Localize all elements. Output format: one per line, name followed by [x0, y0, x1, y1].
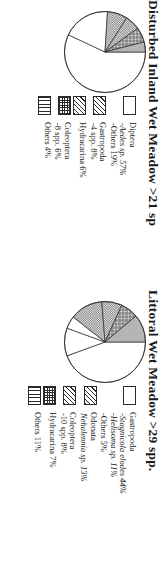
legend-label: Odonata	[88, 412, 98, 482]
legend-label: Coleoptera	[68, 412, 78, 454]
legend-disturbed: Diptera-Aedes sp. 57%-Others 19%Gastropo…	[37, 96, 137, 177]
legend-label: Diptera	[127, 122, 137, 176]
legend-row: Others 11%	[28, 386, 42, 494]
legend-swatch-diag-icon	[63, 386, 76, 405]
legend-sublabel: -Stagnicola elodes 44%	[118, 412, 128, 494]
figure-page: Disturbed Inland Wet Meadow >21 sp Dipte…	[0, 0, 163, 573]
legend-labels: Diptera-Aedes sp. 57%-Others 19%	[108, 122, 137, 176]
pie-svg-littoral	[61, 298, 149, 386]
legend-row: Hydracarina 6%	[73, 96, 87, 177]
legend-swatch-diag-icon	[73, 96, 86, 115]
legend-sublabel: -10 spp. 8%	[58, 412, 68, 454]
legend-label: Hydracarina 7%	[48, 412, 58, 467]
legend-sublabel: -Others 19%	[108, 122, 118, 176]
legend-labels: Hydracarina 6%	[77, 122, 87, 177]
pie-chart-disturbed	[61, 8, 149, 96]
legend-label: Gastropoda	[127, 412, 137, 494]
legend-labels: Others 4%	[42, 122, 52, 158]
legend-swatch-vert-icon	[28, 386, 41, 405]
legend-labels: Coleoptera-8 spp. 6%	[53, 122, 72, 160]
legend-row: Gastropoda-Stagnicola elodes 44%-Helisom…	[99, 386, 137, 494]
legend-label: Coleoptera	[62, 122, 72, 160]
legend-row: Diptera-Aedes sp. 57%-Others 19%	[108, 96, 137, 177]
legend-row: Gastropoda-4 spp. 8%	[88, 96, 107, 177]
pie-chart-littoral	[61, 298, 149, 386]
legend-sublabel: Nehalennia sp. 13%	[78, 412, 88, 482]
legend-label: Others 4%	[42, 122, 52, 158]
legend-swatch-diag-icon	[93, 96, 106, 115]
legend-swatch-blank-icon	[123, 96, 136, 115]
legend-swatch-diag-icon	[84, 386, 97, 405]
legend-label: Others 11%	[33, 412, 43, 452]
legend-littoral: Gastropoda-Stagnicola elodes 44%-Helisom…	[27, 386, 137, 494]
legend-swatch-check-icon	[43, 386, 56, 405]
legend-labels: Hydracarina 7%	[48, 412, 58, 467]
legend-row: OdonataNehalennia sp. 13%	[78, 386, 97, 494]
legend-swatch-blank-icon	[123, 386, 136, 405]
legend-labels: OdonataNehalennia sp. 13%	[78, 412, 97, 482]
legend-labels: Coleoptera-10 spp. 8%	[58, 412, 77, 454]
legend-label: Hydracarina 6%	[77, 122, 87, 177]
legend-sublabel: -Aedes sp. 57%	[118, 122, 128, 176]
legend-swatch-check-icon	[58, 96, 71, 115]
chart-panel-disturbed-inland-wet-meadow: Disturbed Inland Wet Meadow >21 sp Dipte…	[0, 0, 163, 286]
legend-labels: Gastropoda-4 spp. 8%	[88, 122, 107, 161]
legend-labels: Others 11%	[33, 412, 43, 452]
legend-row: Coleoptera-10 spp. 8%	[58, 386, 77, 494]
legend-row: Coleoptera-8 spp. 6%	[53, 96, 72, 177]
legend-sublabel: -4 spp. 8%	[88, 122, 98, 161]
legend-label: Gastropoda	[98, 122, 108, 161]
legend-labels: Gastropoda-Stagnicola elodes 44%-Helisom…	[99, 412, 137, 494]
legend-row: Others 4%	[38, 96, 52, 177]
legend-swatch-vert-icon	[38, 96, 51, 115]
legend-row: Hydracarina 7%	[43, 386, 57, 494]
chart-panel-littoral-wet-meadow: Littoral Wet Meadow >29 spp. Gastropoda-…	[0, 290, 163, 573]
legend-sublabel: -8 spp. 6%	[53, 122, 63, 160]
legend-sublabel: -Others 5%	[99, 412, 109, 494]
legend-sublabel: -Helisoma sp. 11%	[108, 412, 118, 494]
pie-svg-disturbed	[61, 8, 149, 96]
